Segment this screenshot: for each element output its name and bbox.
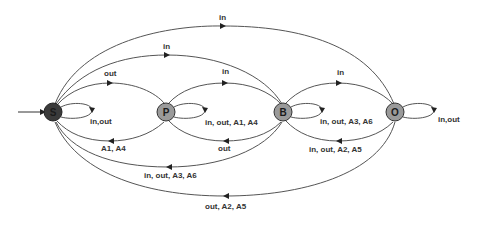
edge-label: out, A2, A5 — [205, 202, 247, 211]
edge-label: in,out — [438, 115, 460, 124]
edge-label: in,out — [90, 117, 112, 126]
state-node-b: B — [274, 103, 292, 121]
self-loop-b: in, out, A3, A6 — [291, 103, 373, 126]
edge-b-to-s: in, out, A3, A6 — [56, 122, 282, 180]
edge-s-to-b: in — [56, 42, 282, 104]
node-label: B — [279, 107, 286, 118]
edge-label: in — [219, 13, 226, 22]
edge-label: in, out, A3, A6 — [144, 171, 197, 180]
edge-label: in, out, A3, A6 — [320, 117, 373, 126]
node-label: O — [391, 107, 399, 118]
node-label: S — [50, 107, 57, 118]
edge-p-to-b: in — [168, 67, 281, 104]
self-loop-s: in,out — [61, 103, 112, 126]
node-label: P — [163, 107, 170, 118]
edge-label: in — [163, 42, 170, 51]
edge-label: in — [222, 67, 229, 76]
edge-label: in — [337, 68, 344, 77]
self-loop-o: in,out — [403, 103, 460, 124]
edge-label: in, out, A1, A4 — [205, 118, 258, 127]
edge-label: out — [218, 144, 231, 153]
state-node-o: O — [386, 103, 404, 121]
edge-label: in, out, A2, A5 — [309, 145, 362, 154]
edge-b-to-o: in — [285, 68, 393, 104]
state-node-p: P — [157, 103, 175, 121]
state-diagram: in in out in in in,out in, out, A1, A4 i — [0, 0, 477, 225]
edge-s-to-o: in — [55, 13, 394, 104]
edge-o-to-s: out, A2, A5 — [55, 122, 395, 211]
edge-label: out — [104, 69, 117, 78]
state-node-s: S — [44, 103, 62, 121]
edge-label: A1, A4 — [101, 144, 126, 153]
self-loop-p: in, out, A1, A4 — [174, 103, 258, 127]
